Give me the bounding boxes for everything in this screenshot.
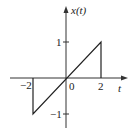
x-axis-label: t (118, 82, 122, 94)
tick-label-2: 2 (98, 80, 104, 92)
y-axis-label: x(t) (70, 4, 87, 17)
t-axis-arrow-icon (121, 76, 128, 81)
x-axis-arrow-icon (64, 6, 69, 13)
tick-label-neg1: −1 (50, 108, 62, 120)
tick-label-neg2: −2 (20, 79, 32, 91)
tick-label-1: 1 (56, 36, 62, 48)
tick-label-0: 0 (69, 80, 75, 92)
signal-plot: x(t) t −2 0 2 1 −1 (0, 0, 134, 134)
